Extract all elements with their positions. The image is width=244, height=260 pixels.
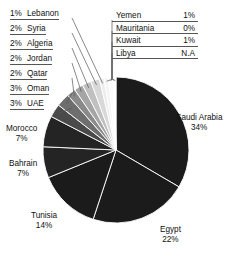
callout-kuwait: Kuwait 1% — [112, 34, 198, 47]
callout-syria: 2% Syria — [10, 24, 46, 35]
label-egypt: Egypt 22% — [160, 225, 181, 245]
callout-kuwait-name: Kuwait — [116, 36, 141, 45]
leader-line-algeria — [72, 48, 89, 88]
label-tunisia-name: Tunisia — [31, 211, 57, 221]
callout-algeria-name: Algeria — [27, 39, 53, 48]
callout-oman: 3% Oman — [10, 84, 49, 95]
callout-qatar: 2% Qatar — [10, 69, 47, 80]
callout-yemen-name: Yemen — [116, 11, 141, 20]
label-tunisia: Tunisia 14% — [31, 211, 57, 231]
callout-lebanon: 1% Lebanon — [10, 9, 59, 20]
callout-mauritania-pct: 0% — [183, 24, 195, 33]
callout-syria-pct: 2% — [10, 24, 23, 33]
label-egypt-pct: 22% — [160, 235, 181, 245]
label-bahrain-name: Bahrain — [9, 159, 37, 169]
callout-mauritania-name: Mauritania — [116, 24, 154, 33]
label-bahrain: Bahrain 7% — [9, 159, 37, 179]
label-saudi-arabia-pct: 34% — [176, 123, 222, 133]
callout-yemen-pct: 1% — [183, 11, 195, 20]
label-morocco: Morocco 7% — [6, 124, 37, 144]
callout-uae-name: UAE — [27, 99, 44, 108]
callout-qatar-name: Qatar — [27, 69, 47, 78]
label-morocco-pct: 7% — [6, 134, 37, 144]
callout-libya-name: Libya — [116, 49, 136, 58]
callout-kuwait-pct: 1% — [183, 36, 195, 45]
pie-chart-figure: 1% Lebanon 2% Syria 2% Algeria 2% Jordan… — [0, 0, 244, 260]
callout-jordan-name: Jordan — [27, 54, 52, 63]
label-saudi-arabia: Saudi Arabia 34% — [176, 113, 222, 133]
label-morocco-name: Morocco — [6, 124, 37, 134]
label-saudi-arabia-name: Saudi Arabia — [176, 113, 222, 123]
callout-syria-name: Syria — [27, 24, 46, 33]
callout-uae-pct: 3% — [10, 99, 23, 108]
label-tunisia-pct: 14% — [31, 221, 57, 231]
label-bahrain-pct: 7% — [9, 169, 37, 179]
callout-algeria-pct: 2% — [10, 39, 23, 48]
callout-jordan-pct: 2% — [10, 54, 23, 63]
callout-oman-pct: 3% — [10, 84, 23, 93]
leader-line-lebanon — [72, 18, 103, 83]
callout-libya: Libya N.A — [112, 47, 198, 60]
callout-lebanon-name: Lebanon — [27, 9, 59, 18]
label-egypt-name: Egypt — [160, 225, 181, 235]
callout-lebanon-pct: 1% — [10, 9, 23, 18]
callout-box-right: Yemen 1% Mauritania 0% Kuwait 1% Libya N… — [112, 9, 198, 59]
callout-algeria: 2% Algeria — [10, 39, 53, 50]
pie-slices-group — [43, 77, 189, 223]
callout-uae: 3% UAE — [10, 99, 44, 110]
callout-libya-pct: N.A — [181, 49, 195, 58]
callout-oman-name: Oman — [27, 84, 49, 93]
callout-mauritania: Mauritania 0% — [112, 22, 198, 35]
callout-qatar-pct: 2% — [10, 69, 23, 78]
callout-yemen: Yemen 1% — [112, 9, 198, 22]
callout-jordan: 2% Jordan — [10, 54, 52, 65]
